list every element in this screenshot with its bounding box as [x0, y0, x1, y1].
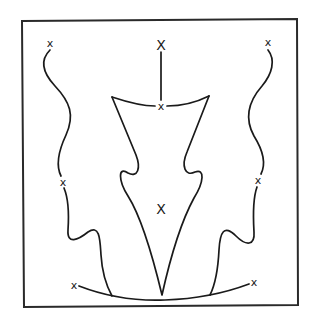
marker-mid-right: x [255, 174, 262, 187]
marker-top-center: X [156, 37, 166, 53]
right-wavy-curve [210, 50, 272, 295]
diagram-canvas: x X x x x X x x x [0, 0, 315, 328]
marker-bottom-right: x [251, 276, 258, 289]
diagram-frame [22, 19, 298, 307]
left-wavy-curve [44, 50, 112, 296]
marker-top-right: x [265, 36, 272, 49]
marker-mid-left: x [60, 176, 67, 189]
marker-bottom-left: x [71, 279, 78, 292]
marker-center: X [156, 201, 166, 217]
central-funnel-shape [112, 96, 209, 295]
marker-upper-center: x [158, 100, 165, 113]
marker-top-left: x [47, 37, 54, 50]
